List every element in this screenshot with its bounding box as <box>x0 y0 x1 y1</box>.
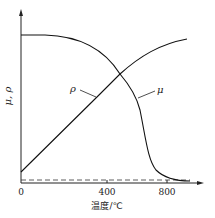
rho-leader-line <box>80 90 96 97</box>
x-axis-title: 温度/℃ <box>91 200 122 211</box>
x-tick-label-800: 800 <box>158 187 175 197</box>
mu-leader-line <box>138 91 155 98</box>
series-mu <box>21 35 190 181</box>
y-axis-arrow-icon <box>19 9 23 16</box>
x-tick-label-400: 400 <box>98 187 115 197</box>
series-rho <box>21 39 187 172</box>
mu-label: μ <box>157 84 164 95</box>
chart: 0 400 800 温度/℃ μ, ρ ρ μ <box>0 0 215 218</box>
y-axis-title: μ, ρ <box>2 87 13 106</box>
x-axis-arrow-icon <box>197 181 204 185</box>
rho-label: ρ <box>69 83 76 94</box>
x-tick-label-0: 0 <box>18 187 24 197</box>
